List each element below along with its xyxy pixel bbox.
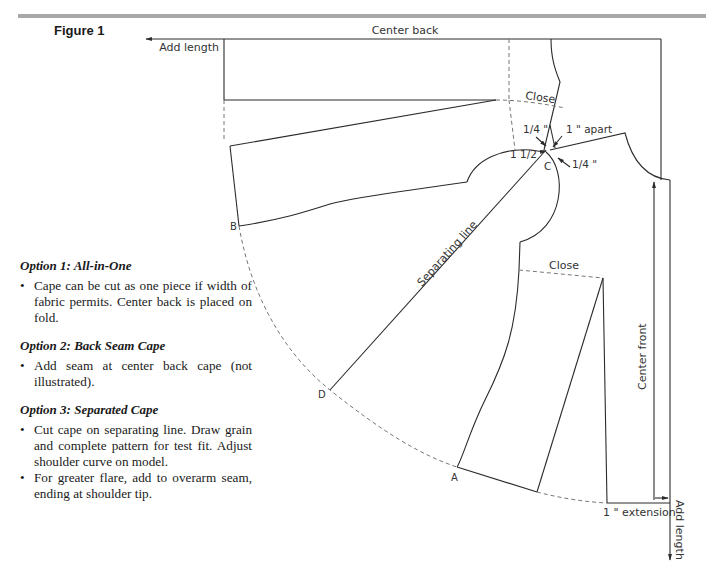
hem-segment-a — [457, 467, 537, 492]
option-2-heading: Option 2: Back Seam Cape — [20, 338, 252, 354]
label-point-c: C — [544, 160, 551, 172]
option-3-heading: Option 3: Separated Cape — [20, 402, 252, 418]
option-2-bullet: Add seam at center back cape (not illust… — [20, 358, 252, 390]
label-quarter-left: 1/4 " — [523, 123, 548, 135]
label-point-b: B — [230, 221, 237, 232]
label-center-front: Center front — [636, 323, 649, 390]
label-one-apart: 1 " apart — [566, 123, 612, 135]
label-point-a: A — [451, 472, 458, 483]
label-close-bottom: Close — [549, 259, 579, 272]
option-2: Option 2: Back Seam Cape Add seam at cen… — [20, 338, 252, 390]
option-3-bullet: For greater flare, add to overarm seam, … — [20, 470, 252, 502]
label-center-back: Center back — [372, 24, 439, 37]
option-1-heading: Option 1: All-in-One — [20, 258, 252, 274]
label-separating-line: Separating line — [415, 218, 481, 289]
label-point-d: D — [318, 389, 326, 400]
label-extension: 1 " extension — [603, 506, 676, 519]
label-one-half: 1 1/2 " — [510, 148, 545, 160]
label-add-length-top: Add length — [159, 41, 219, 54]
label-add-length-side: Add length — [673, 500, 686, 560]
label-close-top: Close — [525, 89, 557, 106]
label-quarter-right: 1/4 " — [572, 158, 597, 170]
option-3-bullet: Cut cape on separating line. Draw grain … — [20, 422, 252, 470]
options-section: Option 1: All-in-One Cape can be cut as … — [20, 258, 252, 514]
option-1: Option 1: All-in-One Cape can be cut as … — [20, 258, 252, 326]
option-3: Option 3: Separated Cape Cut cape on sep… — [20, 402, 252, 502]
option-1-bullet: Cape can be cut as one piece if width of… — [20, 278, 252, 326]
